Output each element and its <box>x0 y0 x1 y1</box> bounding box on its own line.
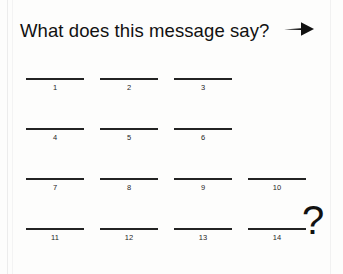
answer-blank[interactable]: 5 <box>100 128 158 142</box>
answer-blank-number: 12 <box>100 233 158 242</box>
answer-blank-rule[interactable] <box>100 78 158 80</box>
answer-blank-number: 2 <box>100 83 158 92</box>
answer-blank-rule[interactable] <box>174 78 232 80</box>
answer-blank-number: 6 <box>174 133 232 142</box>
answer-blank-rule[interactable] <box>248 178 306 180</box>
answer-blank-number: 5 <box>100 133 158 142</box>
answer-blank-rule[interactable] <box>174 178 232 180</box>
answer-blank[interactable]: 7 <box>26 178 84 192</box>
answer-blank[interactable]: 14 <box>248 228 306 242</box>
answer-blank-rule[interactable] <box>100 178 158 180</box>
answer-blank-rule[interactable] <box>26 78 84 80</box>
answer-blank[interactable]: 12 <box>100 228 158 242</box>
answer-blank-number: 3 <box>174 83 232 92</box>
trailing-question-mark: ? <box>302 200 324 240</box>
answer-blank[interactable]: 10 <box>248 178 306 192</box>
answer-blank[interactable]: 9 <box>174 178 232 192</box>
answer-blank-rule[interactable] <box>26 228 84 230</box>
answer-blank[interactable]: 2 <box>100 78 158 92</box>
prompt-row: What does this message say? <box>20 20 314 42</box>
blank-row: 11121314 <box>0 228 343 274</box>
answer-blank-rule[interactable] <box>100 128 158 130</box>
answer-blank[interactable]: 11 <box>26 228 84 242</box>
answer-blank-rule[interactable] <box>100 228 158 230</box>
answer-blank-number: 11 <box>26 233 84 242</box>
answer-blank[interactable]: 13 <box>174 228 232 242</box>
answer-blank[interactable]: 4 <box>26 128 84 142</box>
worksheet-page: What does this message say? 123456789101… <box>0 0 343 274</box>
answer-blank-number: 14 <box>248 233 306 242</box>
answer-blank-number: 9 <box>174 183 232 192</box>
blank-row: 78910 <box>0 178 343 228</box>
answer-blank-number: 8 <box>100 183 158 192</box>
answer-blank-number: 7 <box>26 183 84 192</box>
blank-row: 456 <box>0 128 343 178</box>
blank-row: 123 <box>0 78 343 128</box>
answer-blank[interactable]: 6 <box>174 128 232 142</box>
answer-blank-number: 1 <box>26 83 84 92</box>
answer-blank[interactable]: 1 <box>26 78 84 92</box>
answer-blank-rule[interactable] <box>248 228 306 230</box>
arrow-right-icon <box>284 21 314 41</box>
answer-blank[interactable]: 3 <box>174 78 232 92</box>
answer-blank[interactable]: 8 <box>100 178 158 192</box>
answer-blank-rule[interactable] <box>174 228 232 230</box>
answer-blank-rule[interactable] <box>26 178 84 180</box>
answer-blank-number: 13 <box>174 233 232 242</box>
answer-blanks-grid: 1234567891011121314 <box>0 78 343 274</box>
answer-blank-number: 10 <box>248 183 306 192</box>
prompt-text: What does this message say? <box>20 20 270 42</box>
answer-blank-rule[interactable] <box>174 128 232 130</box>
answer-blank-number: 4 <box>26 133 84 142</box>
answer-blank-rule[interactable] <box>26 128 84 130</box>
